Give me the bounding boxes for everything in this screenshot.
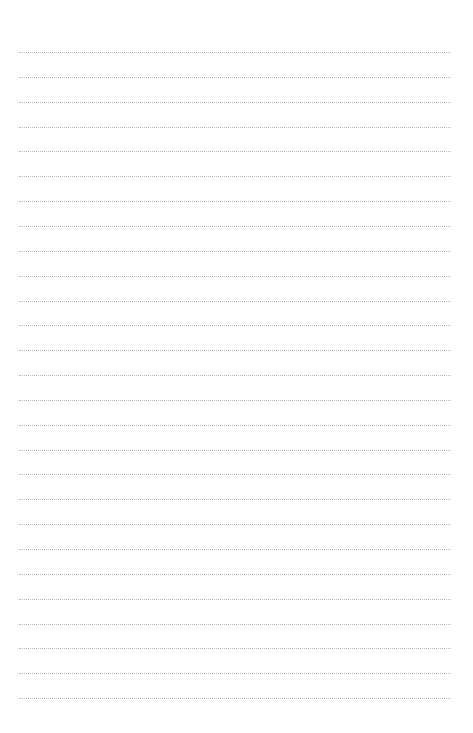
ruled-line: [19, 474, 451, 475]
ruled-line: [19, 325, 451, 326]
ruled-line: [19, 52, 451, 53]
ruled-line: [19, 77, 451, 78]
ruled-line: [19, 201, 451, 202]
ruled-line: [19, 276, 451, 277]
lined-paper-page: [0, 0, 473, 733]
ruled-line: [19, 624, 451, 625]
ruled-line: [19, 251, 451, 252]
ruled-line: [19, 176, 451, 177]
ruled-line: [19, 425, 451, 426]
ruled-line: [19, 102, 451, 103]
ruled-line: [19, 350, 451, 351]
ruled-line: [19, 698, 451, 699]
ruled-line: [19, 450, 451, 451]
ruled-line: [19, 574, 451, 575]
ruled-line: [19, 151, 451, 152]
ruled-line: [19, 673, 451, 674]
ruled-line: [19, 301, 451, 302]
ruled-line: [19, 499, 451, 500]
ruled-line: [19, 127, 451, 128]
ruled-line: [19, 599, 451, 600]
ruled-line: [19, 400, 451, 401]
ruled-line: [19, 226, 451, 227]
ruled-line: [19, 524, 451, 525]
ruled-line: [19, 549, 451, 550]
ruled-line: [19, 375, 451, 376]
ruled-line: [19, 648, 451, 649]
